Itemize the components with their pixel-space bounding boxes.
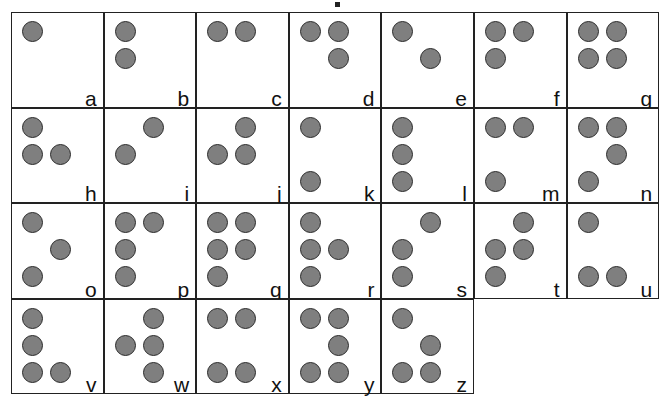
braille-dot-1 [207,21,228,42]
letter-label: y [364,374,375,395]
letter-label: n [641,183,653,204]
braille-dot-3 [22,266,43,287]
braille-dot-6 [50,362,71,383]
braille-dot-2 [392,144,413,165]
braille-cell-s: s [381,203,474,299]
braille-dot-3 [485,171,506,192]
braille-cell-t: t [474,203,567,299]
braille-dot-3 [300,171,321,192]
braille-cell-k: k [289,108,382,204]
braille-cell-g: g [567,12,660,108]
braille-dot-5 [328,239,349,260]
letter-label: z [456,374,467,395]
letter-label: v [86,374,97,395]
braille-dot-1 [392,117,413,138]
braille-dot-6 [606,266,627,287]
braille-dot-1 [22,117,43,138]
letter-label: a [85,88,97,109]
letter-label: q [270,279,282,300]
braille-dot-5 [235,239,256,260]
braille-dot-4 [513,212,534,233]
braille-dot-2 [485,48,506,69]
letter-label: j [277,183,282,204]
braille-dot-1 [392,21,413,42]
braille-dot-1 [300,21,321,42]
braille-dot-1 [578,117,599,138]
braille-dot-1 [300,308,321,329]
letter-label: c [271,88,282,109]
braille-dot-6 [235,362,256,383]
braille-cell-z: z [381,299,474,395]
braille-dot-3 [207,266,228,287]
braille-dot-4 [513,117,534,138]
braille-dot-1 [207,308,228,329]
braille-cell-n: n [567,108,660,204]
braille-dot-5 [420,335,441,356]
braille-dot-1 [578,212,599,233]
braille-dot-3 [392,171,413,192]
braille-dot-3 [485,266,506,287]
braille-cell-v: v [11,299,104,395]
braille-dot-4 [328,308,349,329]
braille-dot-4 [606,21,627,42]
braille-dot-2 [300,239,321,260]
braille-cell-j: j [196,108,289,204]
braille-dot-1 [485,117,506,138]
letter-label: t [554,279,560,300]
braille-dot-6 [143,362,164,383]
braille-dot-4 [143,308,164,329]
letter-label: g [641,88,653,109]
braille-cell-e: e [381,12,474,108]
braille-dot-5 [606,144,627,165]
braille-dot-5 [606,48,627,69]
braille-dot-4 [235,308,256,329]
braille-dot-3 [300,362,321,383]
braille-dot-1 [22,21,43,42]
braille-dot-1 [485,21,506,42]
braille-dot-5 [328,48,349,69]
letter-label: h [85,183,97,204]
braille-cell-f: f [474,12,567,108]
letter-label: p [178,279,190,300]
braille-dot-1 [115,21,136,42]
braille-dot-5 [420,48,441,69]
braille-dot-4 [420,212,441,233]
braille-dot-3 [207,362,228,383]
letter-label: r [367,279,374,300]
letter-label: f [554,88,560,109]
braille-dot-2 [22,144,43,165]
letter-label: x [271,374,282,395]
braille-dot-1 [300,117,321,138]
braille-dot-3 [578,171,599,192]
letter-label: e [455,88,467,109]
braille-dot-4 [143,117,164,138]
braille-cell-m: m [474,108,567,204]
letter-label: i [185,183,190,204]
braille-dot-2 [207,144,228,165]
braille-cell-q: q [196,203,289,299]
braille-dot-1 [578,21,599,42]
braille-cell-w: w [104,299,197,395]
braille-cell-o: o [11,203,104,299]
braille-dot-6 [328,362,349,383]
braille-dot-5 [328,335,349,356]
braille-dot-1 [392,308,413,329]
braille-dot-3 [22,362,43,383]
braille-dot-1 [207,212,228,233]
braille-dot-1 [22,212,43,233]
braille-dot-5 [235,144,256,165]
braille-cell-r: r [289,203,382,299]
braille-dot-1 [300,212,321,233]
braille-dot-1 [22,308,43,329]
braille-dot-4 [606,117,627,138]
braille-dot-3 [392,362,413,383]
braille-dot-5 [143,335,164,356]
braille-dot-5 [513,239,534,260]
letter-label: m [542,183,560,204]
braille-dot-5 [50,239,71,260]
braille-dot-3 [115,266,136,287]
braille-cell-d: d [289,12,382,108]
braille-dot-2 [115,48,136,69]
braille-cell-b: b [104,12,197,108]
braille-dot-4 [235,212,256,233]
